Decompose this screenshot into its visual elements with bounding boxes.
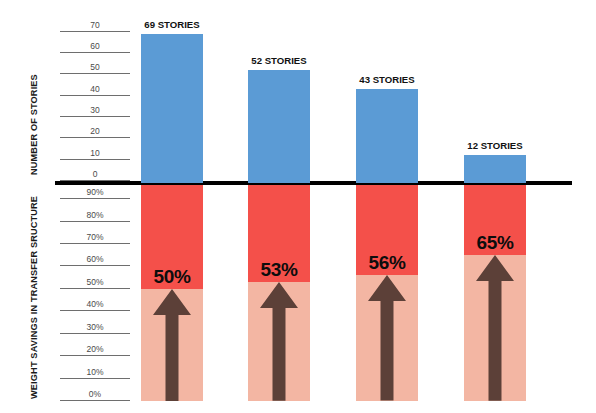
axis-tick-label: 40 <box>60 84 130 95</box>
tick-scale-percent: 90%80%70%60%50%40%30%20%10%0% <box>60 188 130 401</box>
axis-tick-line <box>60 221 130 222</box>
bar-percent-label: 65% <box>464 232 526 254</box>
axis-title-weight-savings: WEIGHT SAVINGS IN TRANSFER SRUCTURE <box>29 196 39 399</box>
bar-stories-label: 12 STORIES <box>425 140 565 151</box>
axis-tick-label: 30% <box>60 322 130 333</box>
bar-stories-label: 52 STORIES <box>209 55 349 66</box>
axis-tick-label: 40% <box>60 299 130 310</box>
axis-tick-label: 0% <box>60 389 130 400</box>
up-arrow-icon <box>260 282 298 401</box>
bar-group[interactable]: 43 STORIES56% <box>356 0 418 413</box>
tick-scale-stories: 706050403020100 <box>60 21 130 181</box>
axis-tick-line <box>60 288 130 289</box>
axis-tick-label: 10% <box>60 367 130 378</box>
bar-stories-label: 43 STORIES <box>317 74 457 85</box>
bar-percent-label: 53% <box>248 259 310 281</box>
axis-bracket-stories <box>0 0 18 160</box>
bar-stories[interactable] <box>141 34 203 183</box>
bar-stories-label: 69 STORIES <box>102 19 242 30</box>
axis-tick-label: 20 <box>60 126 130 137</box>
axis-tick-line <box>60 198 130 199</box>
bar-stories[interactable] <box>464 155 526 183</box>
axis-tick-line <box>60 378 130 379</box>
bar-group[interactable]: 52 STORIES53% <box>248 0 310 413</box>
axis-tick-label: 80% <box>60 210 130 221</box>
axis-tick-label: 10 <box>60 148 130 159</box>
axis-tick-line <box>60 159 130 160</box>
axis-tick-line <box>60 333 130 334</box>
axis-tick-label: 90% <box>60 187 130 198</box>
bar-group[interactable]: 69 STORIES50% <box>141 0 203 413</box>
axis-tick-label: 50 <box>60 62 130 73</box>
axis-tick-label: 70% <box>60 232 130 243</box>
up-arrow-icon <box>368 275 406 401</box>
axis-tick-line <box>60 310 130 311</box>
bar-percent-label: 50% <box>141 266 203 288</box>
axis-tick-line <box>60 31 130 32</box>
axis-tick-label: 50% <box>60 277 130 288</box>
chart-canvas: NUMBER OF STORIES WEIGHT SAVINGS IN TRAN… <box>0 0 596 413</box>
bar-group[interactable]: 12 STORIES65% <box>464 0 526 413</box>
axis-title-number-of-stories: NUMBER OF STORIES <box>29 74 39 175</box>
axis-tick-line <box>60 52 130 53</box>
axis-tick-label: 60% <box>60 254 130 265</box>
up-arrow-icon <box>476 255 514 401</box>
axis-tick-line <box>60 400 130 401</box>
axis-bracket-weight-savings <box>0 160 18 373</box>
axis-tick-line <box>60 355 130 356</box>
axis-tick-label: 30 <box>60 105 130 116</box>
up-arrow-icon <box>153 289 191 401</box>
axis-tick-label: 60 <box>60 41 130 52</box>
axis-tick-line <box>60 116 130 117</box>
axis-tick-line <box>60 265 130 266</box>
axis-tick-label: 20% <box>60 344 130 355</box>
axis-tick-line <box>60 73 130 74</box>
bar-stories[interactable] <box>248 70 310 183</box>
axis-tick-line <box>60 137 130 138</box>
bar-percent-label: 56% <box>356 252 418 274</box>
axis-tick-line <box>60 243 130 244</box>
axis-tick-label: 0 <box>60 169 130 180</box>
axis-tick-line <box>60 95 130 96</box>
bar-stories[interactable] <box>356 89 418 183</box>
